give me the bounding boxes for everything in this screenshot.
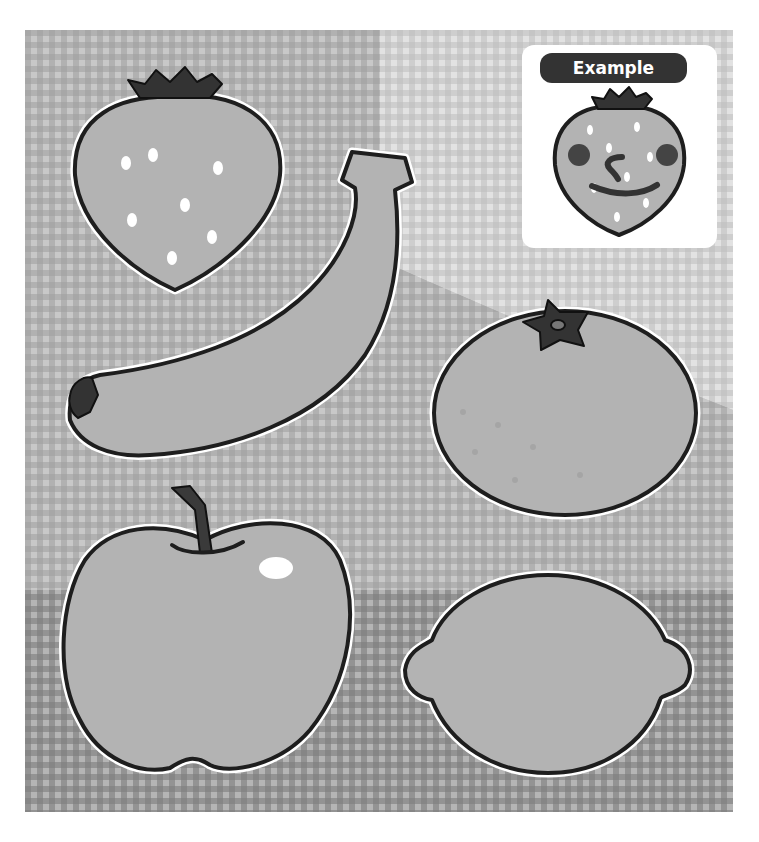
example-card: Example bbox=[522, 45, 717, 248]
example-label: Example bbox=[540, 53, 687, 83]
example-strawberry-face-icon bbox=[522, 85, 717, 245]
